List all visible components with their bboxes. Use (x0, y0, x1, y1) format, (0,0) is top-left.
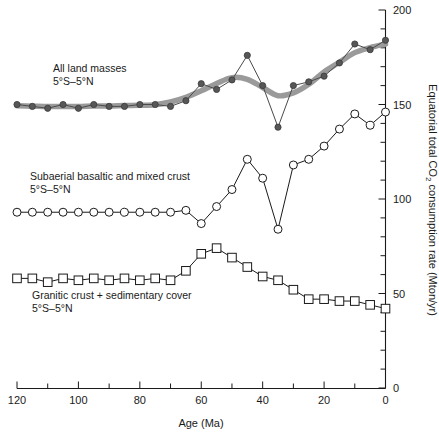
data-point-open-square (43, 278, 52, 287)
data-point-filled-circle (137, 101, 143, 107)
data-point-open-circle (335, 125, 343, 133)
x-axis: 120100806040200 (8, 382, 389, 407)
data-point-open-circle (243, 155, 251, 163)
data-point-open-square (381, 304, 390, 313)
x-axis-title: Age (Ma) (178, 417, 223, 429)
y-tick-label: 150 (393, 99, 411, 111)
y-axis-ticks (379, 10, 386, 388)
y-tick-label: 50 (393, 288, 405, 300)
data-point-open-circle (105, 208, 113, 216)
y-tick-label: 100 (393, 193, 411, 205)
data-point-open-square (13, 274, 22, 283)
data-point-open-circle (13, 208, 21, 216)
ann-all-land-masses-line1: All land masses (53, 62, 127, 74)
data-point-open-square (197, 250, 206, 259)
data-point-open-square (243, 263, 252, 272)
data-point-filled-circle (29, 103, 35, 109)
y-tick-label: 0 (393, 382, 399, 394)
data-point-filled-circle (382, 37, 388, 43)
data-point-filled-circle (60, 101, 66, 107)
data-point-open-square (136, 276, 145, 285)
data-point-open-square (120, 274, 129, 283)
data-point-open-square (74, 276, 83, 285)
data-point-open-circle (320, 142, 328, 150)
data-point-open-square (151, 274, 160, 283)
x-tick-label: 120 (8, 394, 26, 406)
data-point-open-circle (305, 155, 313, 163)
data-point-open-circle (59, 208, 67, 216)
data-point-open-square (320, 295, 329, 304)
data-point-filled-circle (290, 83, 296, 89)
data-point-open-circle (259, 174, 267, 182)
ann-subaerial-line2: 5°S–5°N (30, 183, 71, 195)
data-point-open-circle (136, 208, 144, 216)
data-point-filled-circle (214, 86, 220, 92)
y-axis-title: Equatorial total CO2 consumption rate (M… (424, 84, 439, 316)
data-point-filled-circle (75, 105, 81, 111)
ann-granitic-line1: Granitic crust + sedimentary cover (32, 289, 192, 301)
data-point-filled-circle (336, 60, 342, 66)
data-point-open-circle (90, 208, 98, 216)
ann-subaerial-line1: Subaerial basaltic and mixed crust (30, 170, 190, 182)
data-point-open-square (350, 297, 359, 306)
data-point-open-square (228, 253, 237, 262)
data-point-open-circle (120, 208, 128, 216)
ann-all-land-masses-line2: 5°S–5°N (53, 75, 94, 87)
data-point-filled-circle (167, 103, 173, 109)
data-point-filled-circle (367, 47, 373, 53)
x-tick-label: 20 (318, 394, 330, 406)
data-point-filled-circle (121, 103, 127, 109)
x-tick-label: 80 (134, 394, 146, 406)
data-point-filled-circle (229, 77, 235, 83)
svg-text:Equatorial total CO2 consumpti: Equatorial total CO2 consumption rate (M… (424, 84, 439, 316)
ann-subaerial: Subaerial basaltic and mixed crust5°S–5°… (30, 170, 190, 195)
data-point-open-circle (74, 208, 82, 216)
data-point-filled-circle (244, 52, 250, 58)
data-point-open-square (166, 276, 175, 285)
data-point-open-circle (289, 161, 297, 169)
y-axis: 050100150200 (379, 4, 412, 394)
data-point-open-circle (28, 208, 36, 216)
data-point-open-square (274, 276, 283, 285)
y-tick-label: 200 (393, 4, 411, 16)
y-axis-title-post: consumption rate (Mton/yr) (427, 181, 439, 316)
data-point-open-square (28, 274, 37, 283)
data-point-filled-circle (260, 83, 266, 89)
data-point-open-circle (167, 208, 175, 216)
data-point-open-square (366, 301, 375, 310)
data-point-open-circle (228, 186, 236, 194)
data-point-open-square (59, 274, 68, 283)
x-tick-label: 60 (195, 394, 207, 406)
x-tick-label: 0 (382, 394, 388, 406)
data-point-open-square (335, 297, 344, 306)
data-point-filled-circle (91, 101, 97, 107)
co2-consumption-rate-chart: 050100150200 120100806040200 All land ma… (0, 0, 439, 440)
data-point-filled-circle (306, 79, 312, 85)
data-point-open-circle (382, 108, 390, 116)
data-point-filled-circle (275, 124, 281, 130)
chart-canvas: 050100150200 120100806040200 All land ma… (0, 0, 439, 440)
data-point-open-square (304, 295, 313, 304)
y-axis-title-pre: Equatorial total CO (427, 84, 439, 177)
data-point-filled-circle (152, 101, 158, 107)
data-point-open-circle (44, 208, 52, 216)
data-point-open-circle (151, 208, 159, 216)
y-axis-tick-labels: 050100150200 (393, 4, 411, 394)
data-point-open-square (105, 276, 114, 285)
data-point-filled-circle (45, 105, 51, 111)
data-point-open-square (258, 272, 267, 281)
data-point-open-circle (213, 203, 221, 211)
data-point-open-circle (366, 121, 374, 129)
data-point-open-square (89, 274, 98, 283)
data-point-open-square (182, 267, 191, 276)
data-point-filled-circle (183, 98, 189, 104)
x-tick-label: 40 (257, 394, 269, 406)
data-point-filled-circle (14, 101, 20, 107)
data-point-filled-circle (198, 81, 204, 87)
x-axis-ticks (17, 382, 386, 389)
data-point-open-circle (182, 206, 190, 214)
x-axis-tick-labels: 120100806040200 (8, 394, 389, 406)
data-point-filled-circle (106, 103, 112, 109)
data-point-open-circle (197, 220, 205, 228)
data-point-open-circle (351, 110, 359, 118)
